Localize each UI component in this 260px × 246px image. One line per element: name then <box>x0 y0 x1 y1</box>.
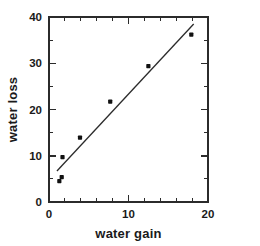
scatter-plot: 01020 010203040 water gain water loss <box>0 0 260 246</box>
fit-line-segment <box>57 24 194 171</box>
tick-marks <box>49 17 208 202</box>
x-tick-label: 0 <box>46 208 52 220</box>
y-tick-label: 20 <box>29 104 42 116</box>
data-point-marker <box>60 155 64 159</box>
data-point-marker <box>189 32 193 36</box>
data-point-marker <box>108 100 112 104</box>
data-point-marker <box>146 64 150 68</box>
x-tick-labels: 01020 <box>46 208 215 220</box>
data-point-marker <box>57 179 61 183</box>
data-points <box>57 32 193 183</box>
regression-line <box>57 24 194 171</box>
x-axis-title: water gain <box>94 226 161 241</box>
data-point-marker <box>60 175 64 179</box>
y-tick-label: 0 <box>36 196 42 208</box>
chart-figure: 01020 010203040 water gain water loss <box>0 0 260 246</box>
y-axis-title: water loss <box>5 77 20 144</box>
y-tick-labels: 010203040 <box>29 11 42 208</box>
y-tick-label: 30 <box>29 57 42 69</box>
data-point-marker <box>78 136 82 140</box>
plot-frame <box>49 17 208 202</box>
x-tick-label: 10 <box>122 208 135 220</box>
y-tick-label: 40 <box>29 11 42 23</box>
x-tick-label: 20 <box>202 208 215 220</box>
y-tick-label: 10 <box>29 150 42 162</box>
